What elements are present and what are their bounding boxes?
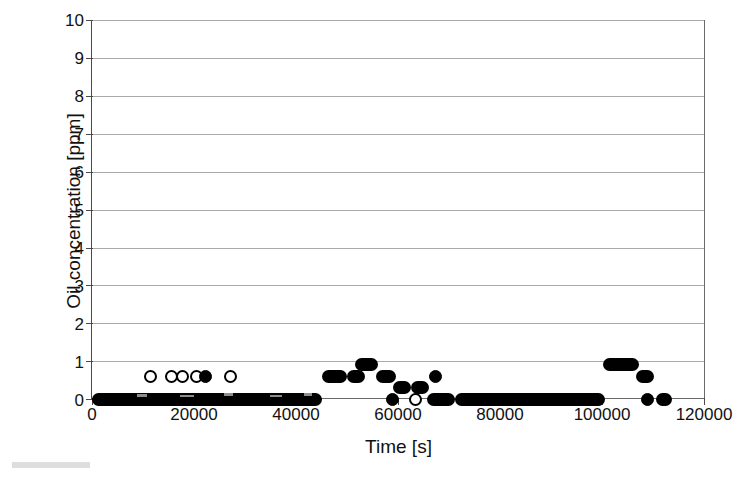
- data-run: [92, 393, 322, 406]
- y-tick-mark-5: [86, 210, 93, 211]
- y-tick-mark-1: [86, 361, 93, 362]
- y-axis-tick-labels: 10 9 8 7 6 5 4 3 2 1 0: [0, 0, 84, 477]
- y-tick-mark-4: [86, 248, 93, 249]
- data-run: [455, 393, 606, 406]
- oil-concentration-scatter-chart: Oil concentration [ppm] 10 9 8 7 6 5 4 3…: [0, 0, 752, 477]
- data-point: [224, 370, 237, 383]
- y-tick-mark-3: [86, 285, 93, 286]
- scan-smudge: [12, 462, 90, 468]
- data-point: [641, 393, 654, 406]
- x-tick-label-20000: 20000: [170, 406, 217, 423]
- data-run: [393, 381, 411, 394]
- y-tick-label-4: 4: [44, 240, 84, 257]
- y-tick-mark-9: [86, 58, 93, 59]
- data-run: [347, 370, 365, 383]
- gridline-y-10: [92, 20, 705, 21]
- x-tick-label-60000: 60000: [374, 406, 421, 423]
- y-tick-label-8: 8: [44, 88, 84, 105]
- gridline-y-6: [92, 172, 705, 173]
- y-tick-label-10: 10: [44, 12, 84, 29]
- y-tick-mark-6: [86, 172, 93, 173]
- gridline-y-8: [92, 96, 705, 97]
- data-run: [427, 393, 455, 406]
- data-run: [376, 370, 396, 383]
- scan-artifact: [180, 395, 194, 397]
- right-axis-line: [704, 20, 705, 400]
- x-tick-label-100000: 100000: [574, 406, 631, 423]
- data-point: [429, 370, 442, 383]
- y-tick-mark-10: [86, 20, 93, 21]
- scan-artifact: [137, 394, 147, 397]
- y-tick-label-9: 9: [44, 50, 84, 67]
- y-tick-label-2: 2: [44, 316, 84, 333]
- y-tick-label-3: 3: [44, 278, 84, 295]
- data-point: [409, 393, 422, 406]
- scan-artifact: [224, 393, 233, 396]
- y-tick-label-5: 5: [44, 202, 84, 219]
- y-tick-label-0: 0: [44, 392, 84, 409]
- data-run: [656, 393, 671, 406]
- data-run: [603, 358, 639, 371]
- y-tick-mark-8: [86, 96, 93, 97]
- data-point: [176, 370, 189, 383]
- y-tick-mark-2: [86, 323, 93, 324]
- x-tick-label-80000: 80000: [476, 406, 523, 423]
- plot-area: [92, 20, 705, 399]
- x-tick-label-0: 0: [87, 406, 96, 423]
- gridline-y-3: [92, 285, 705, 286]
- gridline-y-9: [92, 58, 705, 59]
- gridline-y-5: [92, 210, 705, 211]
- data-point: [386, 393, 399, 406]
- data-run: [636, 370, 654, 383]
- x-tick-label-40000: 40000: [272, 406, 319, 423]
- gridline-y-4: [92, 248, 705, 249]
- x-tick-label-120000: 120000: [676, 406, 733, 423]
- x-tick-mark-120000: [704, 398, 705, 405]
- data-run: [355, 358, 378, 371]
- scan-artifact: [270, 395, 282, 397]
- y-tick-label-7: 7: [44, 126, 84, 143]
- y-tick-mark-7: [86, 134, 93, 135]
- gridline-y-7: [92, 134, 705, 135]
- gridline-y-2: [92, 323, 705, 324]
- y-tick-label-6: 6: [44, 164, 84, 181]
- y-tick-label-1: 1: [44, 354, 84, 371]
- data-point: [199, 370, 212, 383]
- data-run: [322, 370, 348, 383]
- scan-artifact: [304, 393, 312, 396]
- data-point: [144, 370, 157, 383]
- x-axis-title: Time [s]: [92, 436, 705, 458]
